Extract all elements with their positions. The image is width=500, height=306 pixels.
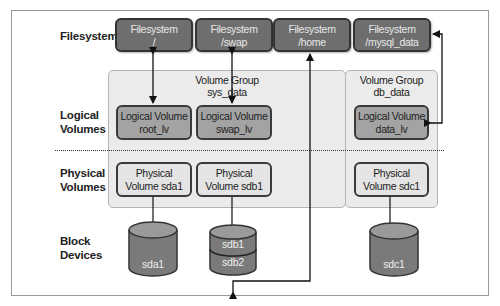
block-device-sda1-label: sda1 (133, 258, 173, 270)
block-device-sdb1-label: sdb1 (213, 238, 253, 250)
block-device-sdc1-label: sdc1 (374, 258, 414, 270)
block-device-sdb2-label: sdb2 (213, 256, 253, 268)
arrow-data-lv-to-mysql-fs (431, 34, 442, 123)
